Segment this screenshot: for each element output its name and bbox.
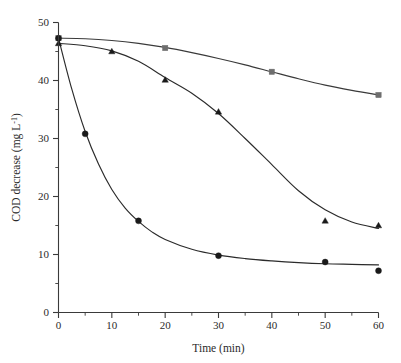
series-circles-point (322, 259, 328, 265)
chart-figure: 010203040500102030405060Time (min)COD de… (0, 0, 401, 363)
x-axis-title: Time (min) (192, 342, 244, 355)
x-tick-label: 30 (213, 319, 225, 331)
markers-layer (55, 35, 381, 274)
y-tick-label: 20 (38, 190, 50, 202)
series-triangles-point (375, 222, 381, 228)
y-axis-title: COD decrease (mg L-1) (10, 113, 24, 222)
y-tick-label: 40 (38, 74, 50, 86)
series-circles-curve (59, 38, 379, 265)
series-circles-point (82, 131, 88, 137)
y-tick-label: 0 (44, 306, 50, 318)
series-circles-point (216, 253, 222, 259)
y-tick-label: 30 (38, 132, 50, 144)
y-tick-label: 50 (38, 16, 50, 28)
series-triangles-point (322, 218, 328, 224)
x-tick-label: 20 (160, 319, 172, 331)
chart-plot-area: 010203040500102030405060Time (min)COD de… (0, 0, 401, 363)
series-squares-curve (59, 38, 379, 95)
y-tick-label: 10 (38, 248, 50, 260)
series-squares-curve-group (59, 38, 379, 95)
series-circles-curve-group (59, 38, 379, 265)
series-circles-point (376, 268, 382, 274)
x-tick-label: 50 (320, 319, 332, 331)
x-tick-label: 60 (373, 319, 385, 331)
series-circles-point (136, 218, 142, 224)
series-squares-point (269, 69, 274, 74)
x-tick-label: 10 (106, 319, 118, 331)
series-squares-point (376, 92, 381, 97)
series-squares-point (162, 45, 167, 50)
series-triangles-curve-group (59, 43, 379, 228)
curves-layer (59, 38, 379, 265)
x-tick-label: 0 (56, 319, 62, 331)
x-tick-label: 40 (266, 319, 278, 331)
series-triangles-curve (59, 43, 379, 228)
